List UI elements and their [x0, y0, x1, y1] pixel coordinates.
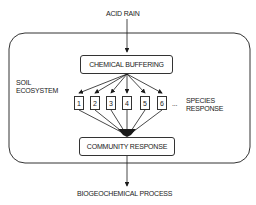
species-box-6: 6: [157, 96, 167, 110]
species-box-4: 4: [122, 96, 132, 110]
species-response-label-line2: RESPONSE: [186, 105, 223, 113]
convergence-arrowheads: [118, 129, 136, 137]
community-response-box: COMMUNITY RESPONSE: [79, 137, 175, 156]
species-box-2: 2: [90, 96, 100, 110]
species-ellipsis: ...: [172, 100, 177, 108]
buffer-to-species-arrows: [79, 74, 162, 93]
acid-rain-label: ACID RAIN: [106, 10, 140, 18]
biogeochemical-process-label: BIOGEOCHEMICAL PROCESS: [77, 190, 172, 198]
soil-ecosystem-label-line2: ECOSYSTEM: [16, 87, 58, 95]
species-box-5: 5: [140, 96, 150, 110]
species-box-1: 1: [74, 96, 84, 110]
species-response-label-line1: SPECIES: [186, 97, 215, 105]
chemical-buffering-box: CHEMICAL BUFFERING: [80, 55, 173, 74]
species-box-3: 3: [106, 96, 116, 110]
soil-ecosystem-label-line1: SOIL: [16, 79, 31, 87]
